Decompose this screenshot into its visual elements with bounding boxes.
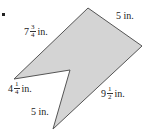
- denominator: 4: [14, 89, 20, 96]
- label-notch-lower-edge: 5 in.: [31, 107, 49, 117]
- unit: in.: [115, 89, 125, 99]
- fraction: 1 2: [107, 86, 113, 101]
- label-top-right-edge: 5 in.: [116, 11, 134, 21]
- label-bottom-right-edge: 9 1 2 in.: [101, 86, 125, 101]
- whole-number: 9: [101, 89, 106, 99]
- unit: in.: [38, 27, 48, 37]
- whole-number: 4: [8, 84, 13, 94]
- label-text: 5 in.: [116, 11, 134, 21]
- unit: in.: [22, 84, 32, 94]
- label-notch-left-edge: 4 1 4 in.: [8, 81, 32, 96]
- fraction: 1 4: [14, 81, 20, 96]
- label-text: 5 in.: [31, 107, 49, 117]
- fraction: 3 4: [30, 24, 36, 39]
- denominator: 4: [30, 32, 36, 39]
- label-top-left-edge: 7 3 4 in.: [24, 24, 48, 39]
- denominator: 2: [107, 94, 113, 101]
- whole-number: 7: [24, 27, 29, 37]
